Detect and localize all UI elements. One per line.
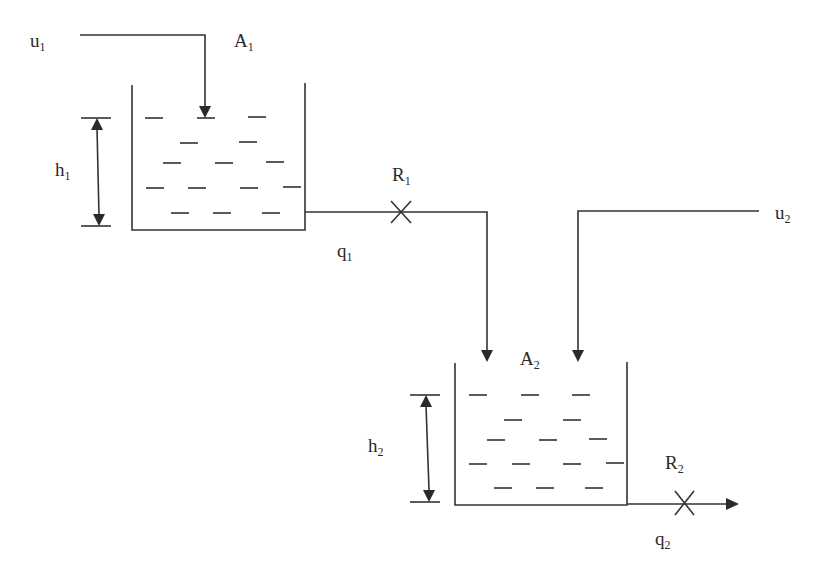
u1-label: u1 bbox=[30, 30, 46, 54]
tank-1-water bbox=[145, 117, 301, 213]
valve-R2-icon bbox=[675, 491, 694, 515]
R2-label: R2 bbox=[665, 452, 684, 476]
h1-dimension bbox=[81, 118, 111, 226]
svg-text:R1: R1 bbox=[392, 164, 411, 188]
svg-text:q2: q2 bbox=[655, 528, 671, 552]
tank-2 bbox=[455, 362, 627, 505]
q1-label: q1 bbox=[337, 240, 353, 264]
h1-label: h1 bbox=[55, 159, 71, 183]
svg-text:A2: A2 bbox=[520, 348, 540, 372]
q1-pipe bbox=[305, 212, 493, 362]
u2-label: u2 bbox=[775, 202, 791, 226]
arrowhead-icon bbox=[199, 106, 211, 118]
h2-label: h2 bbox=[368, 435, 384, 459]
svg-text:u1: u1 bbox=[30, 30, 46, 54]
svg-text:h2: h2 bbox=[368, 435, 384, 459]
tank-2-water bbox=[469, 395, 624, 488]
two-tank-diagram: u1 A1 bbox=[0, 0, 830, 581]
h2-dimension bbox=[410, 395, 440, 502]
svg-text:u2: u2 bbox=[775, 202, 791, 226]
u1-inflow-pipe bbox=[80, 35, 211, 118]
tank-1 bbox=[132, 83, 305, 230]
svg-text:h1: h1 bbox=[55, 159, 71, 183]
svg-text:A1: A1 bbox=[234, 30, 254, 54]
svg-text:q1: q1 bbox=[337, 240, 353, 264]
q2-label: q2 bbox=[655, 528, 671, 552]
A2-label: A2 bbox=[520, 348, 540, 372]
u2-inflow-pipe bbox=[572, 211, 759, 362]
svg-text:R2: R2 bbox=[665, 452, 684, 476]
R1-label: R1 bbox=[392, 164, 411, 188]
A1-label: A1 bbox=[234, 30, 254, 54]
